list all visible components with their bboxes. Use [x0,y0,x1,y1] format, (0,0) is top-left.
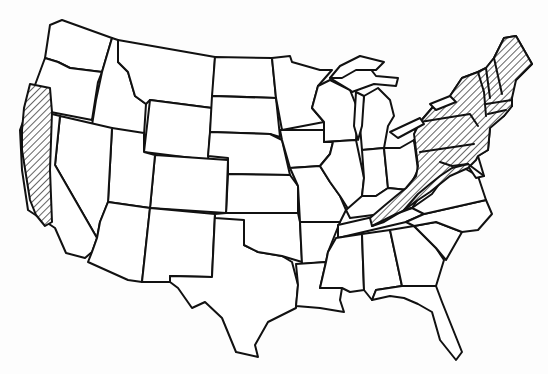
state-colorado [150,155,228,213]
state-north-dakota [212,57,276,98]
state-wyoming [144,100,212,160]
state-michigan-lower [360,88,394,150]
us-map [0,0,548,374]
state-kansas [226,174,298,213]
state-new-mexico [142,208,215,282]
state-florida [372,286,462,360]
state-south-dakota [210,96,280,137]
us-map-svg [0,0,548,374]
